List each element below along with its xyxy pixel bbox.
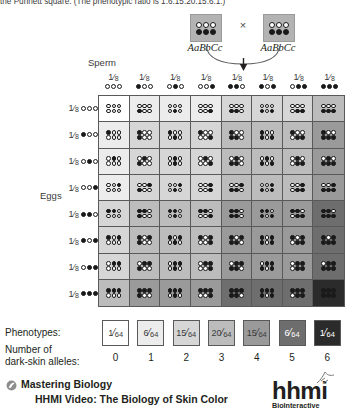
punnett-cell-sperm-alleles xyxy=(137,109,152,114)
allele-dot-dark xyxy=(147,183,152,188)
allele-dot-light xyxy=(117,240,122,245)
allele-dot-light xyxy=(290,261,295,266)
punnett-cell xyxy=(160,175,191,201)
allele-dot-dark xyxy=(260,135,265,140)
punnett-cell xyxy=(130,280,161,306)
allele-dot-light xyxy=(168,188,173,193)
allele-dot-light xyxy=(147,266,152,271)
sperm-gamete-frequency: 1⁄8 xyxy=(263,72,273,82)
allele-dot-light xyxy=(117,214,122,219)
allele-dot-light xyxy=(81,265,86,270)
footer: Mastering Biology HHMI Video: The Biolog… xyxy=(0,377,349,412)
allele-dot-light xyxy=(198,266,203,271)
allele-dot-dark xyxy=(178,261,183,266)
allele-dot-light xyxy=(117,156,122,161)
allele-dot-dark xyxy=(229,188,234,193)
allele-dot-light xyxy=(210,22,216,28)
punnett-cell-sperm-alleles xyxy=(106,266,121,271)
sperm-gamete-alleles xyxy=(105,84,122,89)
egg-gamete-row: 1⁄8 xyxy=(58,254,98,281)
allele-dot-dark xyxy=(208,240,213,245)
allele-dot-light xyxy=(239,135,244,140)
allele-dot-dark xyxy=(331,214,336,219)
allele-dot-light xyxy=(326,183,331,188)
punnett-cell-egg-alleles xyxy=(106,209,121,214)
allele-dot-dark xyxy=(300,109,305,114)
allele-dot-light xyxy=(290,84,295,89)
punnett-cell-egg-alleles xyxy=(106,104,121,109)
punnett-cell-sperm-alleles xyxy=(106,214,121,219)
punnett-cell-egg-alleles xyxy=(106,130,121,135)
allele-dot-dark xyxy=(321,214,326,219)
allele-dot-light xyxy=(142,293,147,298)
allele-dot-dark xyxy=(208,109,213,114)
allele-dot-light xyxy=(106,214,111,219)
allele-dot-dark xyxy=(234,240,239,245)
punnett-cell-sperm-alleles xyxy=(260,214,275,219)
allele-dot-light xyxy=(198,161,203,166)
allele-dot-dark xyxy=(295,266,300,271)
allele-dot-dark xyxy=(147,261,152,266)
allele-dot-light xyxy=(117,293,122,298)
allele-dot-light xyxy=(148,84,153,89)
allele-dot-light xyxy=(137,261,142,266)
punnett-cell-sperm-alleles xyxy=(260,188,275,193)
allele-dot-dark xyxy=(259,84,264,89)
phenotype-frequency: 6⁄64 xyxy=(143,327,158,339)
allele-dot-light xyxy=(208,156,213,161)
punnett-cell xyxy=(313,254,344,280)
punnett-cell-egg-alleles xyxy=(321,130,336,135)
allele-dot-dark xyxy=(326,240,331,245)
punnett-cell-sperm-alleles xyxy=(260,109,275,114)
punnett-cell xyxy=(130,175,161,201)
punnett-cell-egg-alleles xyxy=(229,183,244,188)
punnett-cell-sperm-alleles xyxy=(168,240,183,245)
allele-dot-dark xyxy=(234,109,239,114)
allele-dot-light xyxy=(117,209,122,214)
allele-dot-light xyxy=(240,84,245,89)
allele-dot-dark xyxy=(229,240,234,245)
allele-dot-light xyxy=(300,209,305,214)
allele-dot-dark xyxy=(137,288,142,293)
allele-dot-light xyxy=(265,84,270,89)
allele-dot-light xyxy=(331,130,336,135)
allele-dot-light xyxy=(203,183,208,188)
allele-dot-light xyxy=(147,188,152,193)
allele-dot-dark xyxy=(87,212,92,217)
punnett-cell xyxy=(313,280,344,306)
punnett-cell xyxy=(130,96,161,122)
allele-dot-light xyxy=(112,235,117,240)
allele-dot-light xyxy=(265,109,270,114)
allele-dot-dark xyxy=(229,288,234,293)
punnett-cell xyxy=(252,227,283,253)
dark-allele-count-label: Number of dark-skin alleles: xyxy=(5,344,79,368)
phenotype-legend-row: 1⁄646⁄6415⁄6420⁄6415⁄646⁄641⁄64 xyxy=(98,320,345,348)
allele-dot-dark xyxy=(295,135,300,140)
punnett-cell-sperm-alleles xyxy=(290,266,305,271)
sperm-gamete-header: 1⁄81⁄81⁄81⁄81⁄81⁄81⁄81⁄8 xyxy=(98,72,345,94)
allele-dot-dark xyxy=(296,84,301,89)
punnett-cell xyxy=(191,175,222,201)
punnett-cell-egg-alleles xyxy=(198,261,213,266)
allele-dot-dark xyxy=(239,183,244,188)
allele-dot-light xyxy=(234,104,239,109)
egg-gamete-frequency: 1⁄8 xyxy=(69,156,79,166)
punnett-cell-egg-alleles xyxy=(198,183,213,188)
allele-dot-light xyxy=(117,266,122,271)
punnett-cell xyxy=(222,149,253,175)
allele-dot-light xyxy=(203,22,209,28)
allele-dot-light xyxy=(265,130,270,135)
sperm-gamete-frequency: 1⁄8 xyxy=(139,72,149,82)
punnett-cell-sperm-alleles xyxy=(106,161,121,166)
allele-dot-dark xyxy=(168,209,173,214)
allele-dot-light xyxy=(112,266,117,271)
allele-dot-light xyxy=(290,266,295,271)
egg-gamete-row: 1⁄8 xyxy=(58,201,98,228)
allele-dot-light xyxy=(239,214,244,219)
allele-dot-light xyxy=(178,266,183,271)
phenotypes-label: Phenotypes: xyxy=(5,327,61,338)
punnett-cell-egg-alleles xyxy=(260,261,275,266)
allele-dot-light xyxy=(260,156,265,161)
allele-dot-dark xyxy=(290,209,295,214)
allele-dot-light xyxy=(300,130,305,135)
